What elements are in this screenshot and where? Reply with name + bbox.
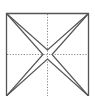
fold-diagram xyxy=(0,0,95,96)
